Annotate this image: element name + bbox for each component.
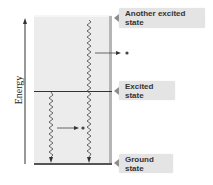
wavy-transition-high-icon: [87, 20, 91, 163]
tag-ground-state: Ground state: [119, 154, 173, 173]
tag-excited-state: Excited state: [119, 81, 175, 100]
energy-axis-arrow-icon: [23, 18, 27, 164]
photon-arrow-high-icon: [95, 51, 129, 55]
tag-label: Ground state: [125, 155, 167, 173]
wavy-transition-low-icon: [49, 92, 53, 163]
tag-another-excited-state: Another excited state: [119, 8, 205, 28]
tag-label: Another excited state: [125, 9, 199, 27]
tag-label: Excited state: [125, 82, 169, 100]
photon-arrow-low-icon: [57, 126, 85, 130]
